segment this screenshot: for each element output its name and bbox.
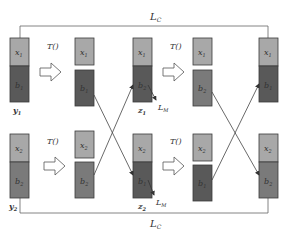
block-y1: x1 b1 y1 [10,38,29,116]
cross-line-b2-to-out2 [212,92,259,175]
transform-label-3: T() [47,137,59,146]
lc-top-label: LC [149,11,162,23]
block-output-top: x1 b1 [259,38,278,102]
transform-arrow-icon-4 [163,157,184,175]
lc-bottom-label: LC [149,218,162,230]
svg-text:z1: z1 [137,105,146,116]
svg-text:z2: z2 [137,201,147,212]
transform-arrow-icon [40,63,61,81]
cross-line-b1-to-out1 [212,84,259,180]
svg-text:y1: y1 [12,105,21,116]
block-z1: x1 b2 z1 [133,38,152,116]
svg-text:y2: y2 [8,201,18,212]
block-split-top: x1 b1 [75,38,94,106]
swap-diagram: LC LC x1 b1 y1 T() x1 b1 x1 b2 z1 LM T()… [0,0,290,233]
transform-label-2: T() [170,42,182,51]
block-split2-top: x1 b2 [193,38,212,106]
transform-arrow-icon-2 [163,63,184,81]
transform-arrow-icon-3 [44,157,65,175]
lm-bottom-label: LM [155,198,167,208]
transform-label-4: T() [170,137,182,146]
lc-top-line [20,26,268,38]
block-z2: x2 b1 z2 [133,134,152,212]
block-output-bottom: x2 b2 [259,134,278,198]
lm-top-label: LM [157,103,169,113]
transform-label: T() [47,42,59,51]
cross-line-b1-to-z2 [94,95,133,175]
cross-line-b2-to-z1 [94,85,133,175]
block-split2-bottom: x2 b1 [193,134,212,201]
block-split-bottom: x2 b2 [75,131,94,198]
block-y2: x2 b2 y2 [8,134,29,212]
